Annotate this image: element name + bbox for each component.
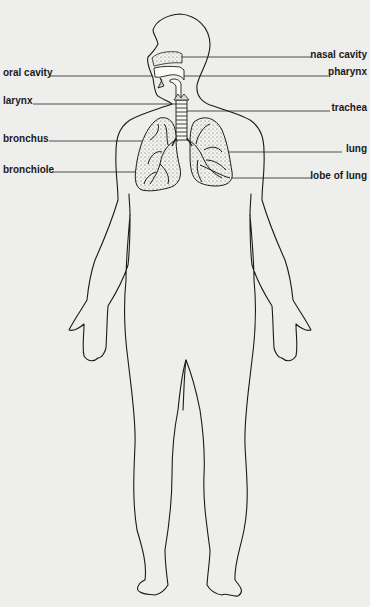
label-lobe-of-lung: lobe of lung [310, 171, 367, 181]
label-larynx: larynx [3, 96, 32, 106]
label-nasal-cavity: nasal cavity [310, 50, 367, 60]
body-outline [69, 14, 311, 596]
label-oral-cavity: oral cavity [3, 68, 52, 78]
respiratory-diagram: oral cavity larynx bronchus bronchiole n… [0, 0, 370, 607]
nasal-cavity-shape [152, 52, 182, 66]
label-lung: lung [346, 144, 367, 154]
left-lung-shape [135, 118, 180, 191]
leader-lines [33, 57, 342, 178]
label-trachea: trachea [331, 103, 367, 113]
label-bronchiole: bronchiole [3, 165, 54, 175]
label-bronchus: bronchus [3, 134, 49, 144]
label-pharynx: pharynx [328, 67, 367, 77]
oral-pharynx-shape [154, 66, 184, 100]
right-lung-shape [187, 118, 232, 186]
body-outline-figure [0, 0, 370, 607]
trachea-shape [174, 94, 189, 140]
